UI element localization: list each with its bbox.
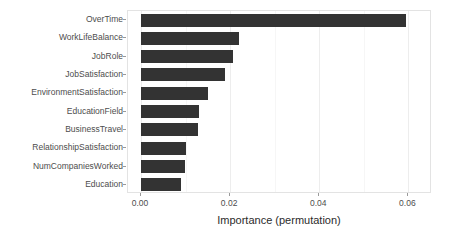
bar-jobsatisfaction[interactable]: [141, 68, 225, 81]
y-tick-label: EnvironmentSatisfaction: [31, 87, 123, 97]
bar-row: [128, 121, 431, 139]
bar-numcompaniesworked[interactable]: [141, 160, 185, 173]
y-tick-mark: [123, 129, 126, 130]
y-tick-mark: [123, 37, 126, 38]
x-tick-label: 0.06: [399, 198, 416, 208]
x-tick-label: 0.00: [132, 198, 149, 208]
bar-education[interactable]: [141, 178, 181, 191]
bar-environmentsatisfaction[interactable]: [141, 87, 208, 100]
bar-row: [128, 48, 431, 66]
x-tick-mark: [229, 193, 230, 196]
x-tick-mark: [318, 193, 319, 196]
y-tick-label: RelationshipSatisfaction: [32, 142, 123, 152]
y-tick-label: NumCompaniesWorked: [33, 161, 123, 171]
bar-row: [128, 29, 431, 47]
bar-row: [128, 11, 431, 29]
x-axis: 0.000.020.040.06: [127, 193, 431, 213]
plot-panel: [127, 10, 431, 193]
bar-jobrole[interactable]: [141, 50, 233, 63]
bar-row: [128, 176, 431, 193]
y-tick-mark: [123, 56, 126, 57]
x-tick-mark: [407, 193, 408, 196]
bar-worklifebalance[interactable]: [141, 32, 239, 45]
x-axis-title: Importance (permutation): [127, 214, 431, 226]
bar-educationfield[interactable]: [141, 105, 199, 118]
permutation-importance-bar-chart: OverTimeWorkLifeBalanceJobRoleJobSatisfa…: [0, 0, 457, 240]
x-tick-mark: [140, 193, 141, 196]
y-tick-mark: [123, 147, 126, 148]
y-tick-label: JobRole: [92, 51, 123, 61]
y-tick-label: WorkLifeBalance: [59, 32, 123, 42]
bar-businesstravel[interactable]: [141, 123, 198, 136]
y-tick-mark: [123, 19, 126, 20]
y-tick-label: BusinessTravel: [65, 124, 123, 134]
bar-row: [128, 157, 431, 175]
y-tick-mark: [123, 166, 126, 167]
bar-row: [128, 84, 431, 102]
bar-overtime[interactable]: [141, 14, 406, 27]
bar-row: [128, 139, 431, 157]
y-tick-label: OverTime: [86, 14, 123, 24]
y-tick-mark: [123, 74, 126, 75]
bar-row: [128, 66, 431, 84]
x-tick-label: 0.04: [310, 198, 327, 208]
bar-row: [128, 103, 431, 121]
bar-relationshipsatisfaction[interactable]: [141, 142, 186, 155]
y-tick-label: JobSatisfaction: [65, 69, 123, 79]
y-tick-label: EducationField: [67, 106, 123, 116]
y-axis-labels: OverTimeWorkLifeBalanceJobRoleJobSatisfa…: [0, 10, 123, 193]
y-tick-label: Education: [85, 179, 123, 189]
y-tick-mark: [123, 184, 126, 185]
x-tick-label: 0.02: [221, 198, 238, 208]
y-tick-mark: [123, 92, 126, 93]
y-tick-mark: [123, 111, 126, 112]
